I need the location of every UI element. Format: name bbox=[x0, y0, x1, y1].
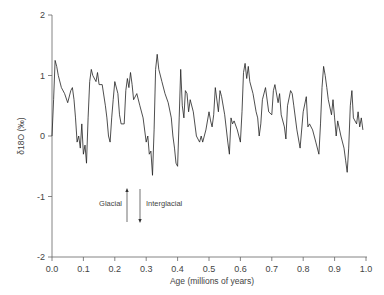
x-tick-label: 0.4 bbox=[171, 264, 184, 274]
glacial-annotation: Glacial bbox=[99, 188, 129, 222]
y-tick-label: 2 bbox=[40, 10, 45, 20]
series-line bbox=[52, 54, 363, 175]
down-arrowhead-icon bbox=[138, 219, 141, 223]
x-tick-label: 0.7 bbox=[266, 264, 279, 274]
x-ticks: 0.00.10.20.30.40.50.60.70.80.91.0 bbox=[46, 257, 373, 274]
x-axis-title: Age (millions of years) bbox=[170, 276, 254, 286]
glacial-label: Glacial bbox=[99, 199, 122, 208]
interglacial-label: Interglacial bbox=[146, 199, 183, 208]
interglacial-annotation: Interglacial bbox=[138, 189, 182, 223]
x-tick-label: 0.9 bbox=[328, 264, 341, 274]
y-tick-label: -2 bbox=[37, 252, 45, 262]
x-tick-label: 0.6 bbox=[234, 264, 247, 274]
y-tick-label: 1 bbox=[40, 71, 45, 81]
y-axis-title: δ18O (‰) bbox=[16, 117, 26, 154]
x-tick-label: 0.2 bbox=[109, 264, 122, 274]
y-tick-label: -1 bbox=[37, 192, 45, 202]
x-tick-label: 0.1 bbox=[77, 264, 90, 274]
x-tick-label: 0.0 bbox=[46, 264, 59, 274]
y-tick-label: 0 bbox=[40, 131, 45, 141]
x-tick-label: 0.8 bbox=[297, 264, 310, 274]
up-arrowhead-icon bbox=[125, 188, 128, 192]
x-tick-label: 0.3 bbox=[140, 264, 153, 274]
x-tick-label: 1.0 bbox=[360, 264, 373, 274]
x-tick-label: 0.5 bbox=[203, 264, 216, 274]
y-ticks: 210-1-2 bbox=[37, 10, 52, 262]
chart: 210-1-2 0.00.10.20.30.40.50.60.70.80.91.… bbox=[0, 0, 384, 295]
